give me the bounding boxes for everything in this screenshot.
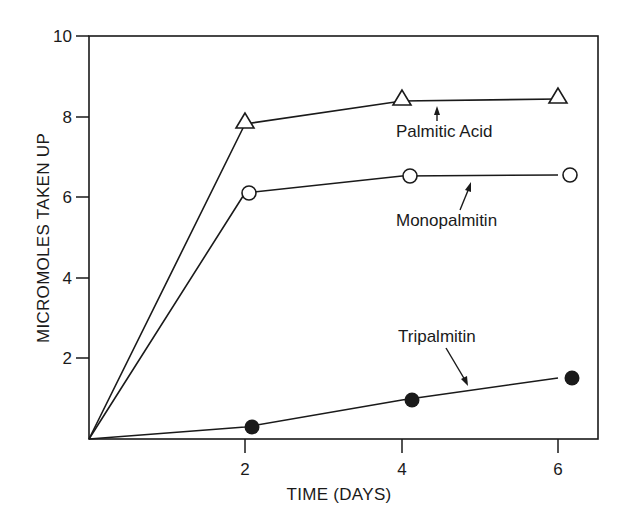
x-axis (245, 439, 558, 453)
x-axis-title: TIME (DAYS) (287, 485, 392, 504)
y-tick-label: 10 (53, 27, 72, 46)
annotation-palmitic-acid: Palmitic Acid (396, 122, 492, 141)
markers-monopalmitin (242, 168, 577, 200)
circle-marker (563, 168, 577, 182)
line-chart: 10 8 6 4 2 2 4 6 TIME (DAYS) MICROMOLES … (0, 0, 638, 522)
x-tick-label: 4 (397, 460, 406, 479)
y-tick-label: 4 (63, 269, 72, 288)
triangle-marker (393, 90, 411, 105)
markers-tripalmitin (245, 371, 580, 435)
x-tick-label: 2 (240, 460, 249, 479)
arrowhead-icon (465, 182, 471, 192)
filled-circle-marker (245, 420, 260, 435)
arrowhead-icon (434, 106, 440, 115)
y-tick-label: 8 (63, 108, 72, 127)
triangle-marker (549, 88, 567, 103)
x-tick-label: 6 (553, 460, 562, 479)
triangle-marker (236, 113, 254, 128)
y-axis (76, 36, 89, 358)
filled-circle-marker (405, 393, 420, 408)
plot-frame (89, 36, 598, 439)
series-line-tripalmitin (89, 378, 558, 439)
annotation-tripalmitin: Tripalmitin (398, 327, 476, 346)
filled-circle-marker (565, 371, 580, 386)
y-axis-title: MICROMOLES TAKEN UP (34, 133, 53, 343)
circle-marker (242, 186, 256, 200)
y-tick-label: 2 (63, 349, 72, 368)
arrow-icon (446, 348, 465, 380)
arrow-icon (460, 188, 469, 210)
y-tick-label: 6 (63, 188, 72, 207)
annotation-monopalmitin: Monopalmitin (396, 211, 497, 230)
circle-marker (403, 169, 417, 183)
arrowhead-icon (461, 376, 468, 386)
